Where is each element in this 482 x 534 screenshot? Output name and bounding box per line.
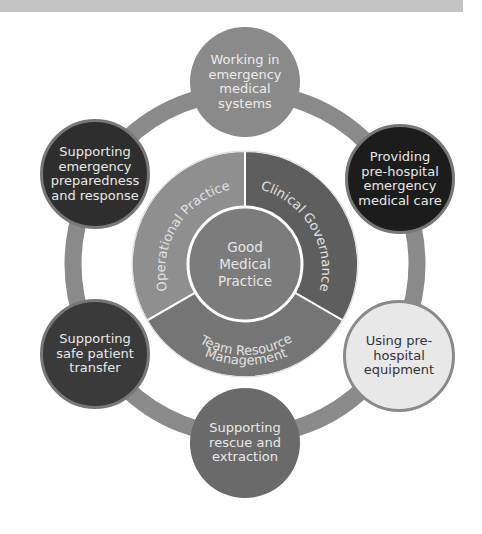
node-providing-pre-hospital-care: Providing pre-hospital emergency medical…	[345, 124, 455, 234]
node-label: Using pre- hospital equipment	[364, 334, 434, 378]
node-label: Supporting rescue and extraction	[209, 421, 281, 465]
node-label: Providing pre-hospital emergency medical…	[358, 150, 442, 208]
node-label: Working in emergency medical systems	[208, 53, 281, 111]
node-working-in-emergency-medical-systems: Working in emergency medical systems	[190, 27, 300, 137]
node-supporting-emergency-preparedness: Supporting emergency preparedness and re…	[40, 119, 150, 229]
node-supporting-rescue-and-extraction: Supporting rescue and extraction	[190, 388, 300, 498]
node-label: Supporting emergency preparedness and re…	[51, 145, 140, 203]
node-supporting-safe-patient-transfer: Supporting safe patient transfer	[40, 299, 150, 409]
node-label: Supporting safe patient transfer	[56, 332, 134, 376]
center-label: Good Medical Practice	[195, 214, 295, 314]
node-using-pre-hospital-equipment: Using pre- hospital equipment	[343, 300, 455, 412]
